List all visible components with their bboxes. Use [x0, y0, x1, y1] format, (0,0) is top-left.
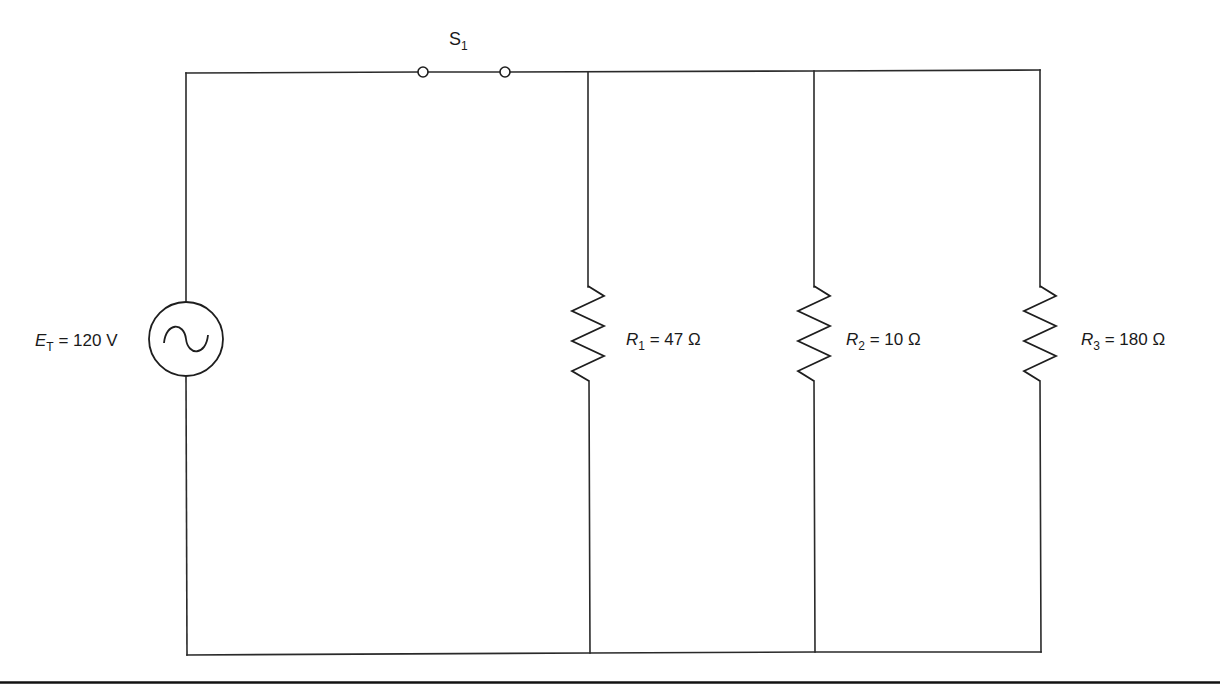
resistor-zigzag-icon: [572, 286, 604, 381]
resistor-r1: R1 = 47 Ω: [572, 286, 701, 381]
circuit-wiring: [186, 70, 1041, 655]
source-label: ET = 120 V: [35, 331, 118, 354]
top-wire-right: [510, 70, 1040, 72]
r1-label: R1 = 47 Ω: [626, 330, 701, 353]
resistor-zigzag-icon: [798, 286, 830, 381]
switch-terminal-right: [500, 67, 510, 77]
r3-branch-bottom: [1040, 381, 1041, 652]
bottom-wire: [187, 652, 1041, 655]
parallel-circuit-diagram: S1 ET = 120 V R1 = 47 Ω R2 = 10 Ω R3 = 1…: [0, 0, 1220, 694]
r3-label: R3 = 180 Ω: [1081, 330, 1165, 353]
r2-branch-bottom: [814, 381, 815, 652]
resistor-zigzag-icon: [1024, 286, 1056, 381]
switch-label: S1: [449, 29, 468, 53]
top-wire-left: [186, 72, 418, 73]
left-wire-bottom: [186, 377, 187, 655]
resistor-r2: R2 = 10 Ω: [798, 286, 921, 381]
r1-branch-bottom: [589, 381, 590, 653]
resistor-r3: R3 = 180 Ω: [1024, 286, 1165, 381]
switch-terminal-left: [418, 67, 428, 77]
ac-voltage-source: ET = 120 V: [35, 302, 223, 376]
switch-s1: S1: [418, 29, 510, 77]
r2-label: R2 = 10 Ω: [846, 330, 921, 353]
